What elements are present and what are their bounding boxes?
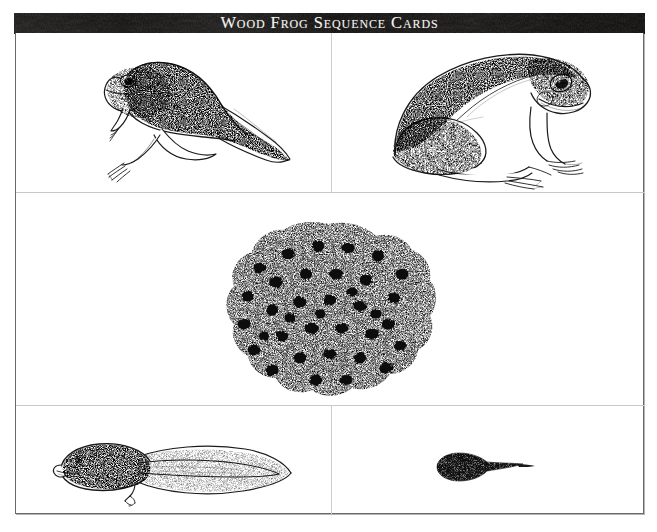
card-froglet[interactable] xyxy=(16,33,331,192)
frog-egg-mass-icon xyxy=(220,218,442,402)
hatchling-tail-tip xyxy=(517,464,535,467)
adult-wood-frog-icon xyxy=(379,35,611,190)
card-hatchling[interactable] xyxy=(331,405,645,514)
cards-grid xyxy=(16,33,643,513)
card-tadpole[interactable] xyxy=(16,405,331,514)
card-adult-frog[interactable] xyxy=(331,33,645,192)
worksheet-page: Wood Frog Sequence Cards xyxy=(0,0,657,532)
cards-frame xyxy=(15,33,644,514)
froglet-with-tail-icon xyxy=(84,43,304,183)
card-egg-mass[interactable] xyxy=(16,192,645,405)
large-tadpole-icon xyxy=(51,433,296,511)
page-title: Wood Frog Sequence Cards xyxy=(220,15,438,32)
newly-hatched-tadpole-icon xyxy=(431,447,551,487)
title-banner: Wood Frog Sequence Cards xyxy=(14,13,645,34)
